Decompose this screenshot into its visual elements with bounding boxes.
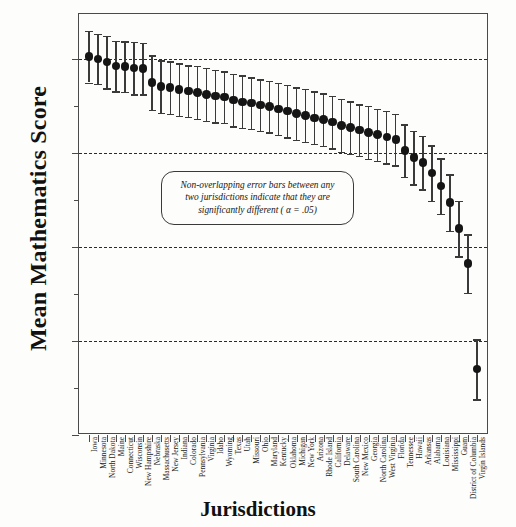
error-bar-cap-upper [230,74,237,75]
y-tick-210 [72,435,79,436]
gridline-290 [79,59,487,60]
data-point-marker[interactable] [283,107,292,116]
x-tick-label: Guam [461,437,469,455]
data-point-marker[interactable] [319,115,328,124]
data-point-marker[interactable] [428,169,437,178]
data-point-marker[interactable] [265,102,274,111]
data-point-marker[interactable] [166,83,175,92]
data-point-marker[interactable] [103,58,112,67]
error-bar-cap-lower [103,88,110,89]
error-bar-cap-lower [158,113,165,114]
error-bar-cap-lower [410,184,417,185]
data-point-marker[interactable] [229,96,238,105]
x-tick-label: Alabama [434,437,442,464]
error-bar-cap-lower [419,189,426,190]
x-tick-label: District of Columbia [470,437,478,499]
data-point-marker[interactable] [148,78,157,87]
data-point-marker[interactable] [301,111,310,120]
data-point-marker[interactable] [220,93,229,102]
error-bar-cap-lower [239,128,246,129]
data-point-marker[interactable] [346,123,355,132]
error-bar-cap-lower [455,256,462,257]
data-point-marker[interactable] [310,114,319,123]
error-bar-cap-lower [284,137,291,138]
data-point-marker[interactable] [202,90,211,99]
error-bar-cap-lower [94,84,101,85]
error-bar-cap-upper [176,63,183,64]
data-point-marker[interactable] [364,128,373,137]
y-tick-minor-220 [74,388,79,389]
data-point-marker[interactable] [410,153,419,162]
x-tick-label: Louisiana [443,437,451,467]
data-point-marker[interactable] [211,92,220,101]
error-bar-cap-upper [266,81,273,82]
data-point-marker[interactable] [157,82,166,91]
y-tick-230 [72,341,79,342]
error-bar-cap-lower [131,94,138,95]
x-tick-label: Delaware [344,437,352,466]
error-bar-cap-upper [473,339,480,340]
data-point-marker[interactable] [121,62,130,71]
data-point-marker[interactable] [355,126,364,135]
error-bar-cap-upper [455,201,462,202]
data-point-marker[interactable] [238,98,247,107]
x-tick-label: Hawaii [416,437,424,459]
error-bar-cap-upper [419,136,426,137]
error-bar-cap-lower [302,142,309,143]
data-point-marker[interactable] [392,135,401,144]
data-point-marker[interactable] [247,99,256,108]
data-point-marker[interactable] [292,109,301,118]
error-bar-cap-lower [392,165,399,166]
data-point-marker[interactable] [139,64,148,73]
data-point-marker[interactable] [256,101,265,110]
error-bar-cap-lower [266,132,273,133]
error-bar-cap-lower [275,135,282,136]
error-bar-cap-upper [158,60,165,61]
x-tick-label: Iowa [91,437,99,452]
data-point-marker[interactable] [130,64,139,73]
error-bar-cap-upper [401,124,408,125]
x-tick-label: Arkansas [425,437,433,465]
x-tick-label: California [335,437,343,467]
x-tick-label: Oklahoma [290,437,298,468]
y-tick-minor-240 [74,294,79,295]
x-tick-label: Arizona [317,437,325,461]
data-point-marker[interactable] [473,365,482,374]
error-bar-cap-upper [239,75,246,76]
data-point-marker[interactable] [383,133,392,142]
data-point-marker[interactable] [455,224,464,233]
annotation-box: Non-overlapping error bars between any t… [161,171,354,225]
error-bar-cap-upper [437,158,444,159]
x-tick-label: Minnesota [100,437,108,469]
gridline-270 [79,153,487,154]
data-point-marker[interactable] [437,182,446,191]
data-point-marker[interactable] [464,259,473,268]
error-bar-cap-lower [140,94,147,95]
data-point-marker[interactable] [193,88,202,97]
data-point-marker[interactable] [419,158,428,167]
error-bar-cap-upper [221,71,228,72]
error-bar-cap-lower [365,159,372,160]
x-tick-label: Tennessee [407,437,415,468]
data-point-marker[interactable] [184,87,193,96]
x-tick-label: Michigan [299,437,307,466]
data-point-marker[interactable] [112,62,121,71]
error-bar-cap-lower [221,123,228,124]
error-bar-cap-upper [329,96,336,97]
data-point-marker[interactable] [328,118,337,127]
error-bar-cap-upper [94,34,101,35]
error-bar-cap-lower [293,140,300,141]
data-point-marker[interactable] [337,121,346,130]
error-bar-cap-lower [167,114,174,115]
gridline-250 [79,247,487,248]
data-point-marker[interactable] [373,130,382,139]
x-tick-label: Mississippi [452,437,460,471]
data-point-marker[interactable] [175,85,184,94]
data-point-marker[interactable] [446,198,455,207]
data-point-marker[interactable] [94,55,103,64]
data-point-marker[interactable] [401,146,410,155]
error-bar-cap-upper [103,36,110,37]
x-tick-label: Rhode Island [326,437,334,477]
data-point-marker[interactable] [274,105,283,114]
data-point-marker[interactable] [85,52,94,61]
